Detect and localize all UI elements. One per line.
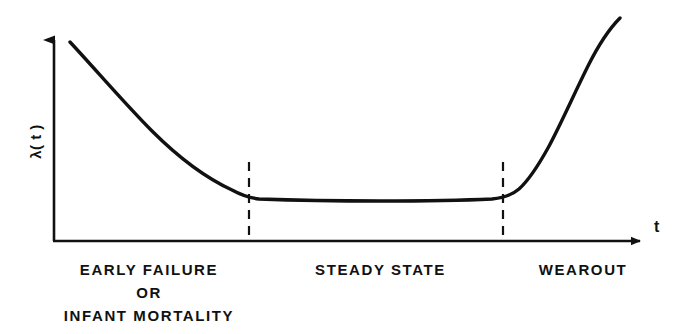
phase-label-steady-line-1: STEADY STATE — [258, 258, 503, 281]
phase-label-early-line-1: EARLY FAILURE — [40, 258, 258, 281]
phase-label-early-line-3: INFANT MORTALITY — [40, 304, 258, 327]
bathtub-curve-figure: λ( t ) t EARLY FAILURE OR INFANT MORTALI… — [0, 0, 686, 334]
phase-label-wearout: WEAROUT — [503, 258, 663, 281]
y-axis-label: λ( t ) — [27, 102, 44, 182]
phase-label-steady-state: STEADY STATE — [258, 258, 503, 281]
failure-rate-curve — [70, 18, 620, 201]
x-axis-label: t — [654, 218, 659, 236]
phase-label-early-line-2: OR — [40, 281, 258, 304]
phase-label-wearout-line-1: WEAROUT — [503, 258, 663, 281]
phase-label-early-failure: EARLY FAILURE OR INFANT MORTALITY — [40, 258, 258, 327]
